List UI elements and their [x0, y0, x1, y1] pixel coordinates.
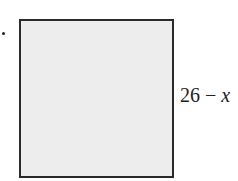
label-operator: − [200, 84, 221, 106]
bullet-dot [2, 32, 5, 35]
label-number: 26 [180, 84, 200, 106]
label-variable: x [221, 84, 230, 106]
square-shape [19, 19, 174, 178]
side-length-label: 26 − x [180, 84, 230, 107]
